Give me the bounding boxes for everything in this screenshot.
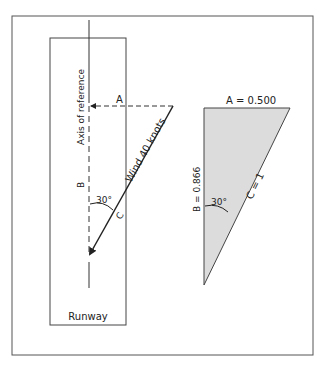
- point-c-label: C: [114, 211, 126, 221]
- point-b-label: B: [76, 182, 86, 188]
- runway-outline: [50, 38, 126, 325]
- point-a-label: A: [116, 94, 123, 105]
- axis-of-reference-label: Axis of reference: [76, 68, 86, 145]
- outer-frame: [12, 16, 313, 355]
- runway-label: Runway: [68, 311, 107, 322]
- angle-label-right: 30°: [211, 197, 227, 207]
- angle-label-left: 30°: [96, 195, 112, 205]
- wind-label: Wind 40 knots: [123, 116, 167, 184]
- triangle-b-label: B = 0.866: [192, 167, 202, 212]
- triangle-a-label: A = 0.500: [226, 95, 276, 106]
- wind-component-diagram: Runway Axis of reference A B Wind 40 kno…: [0, 0, 321, 366]
